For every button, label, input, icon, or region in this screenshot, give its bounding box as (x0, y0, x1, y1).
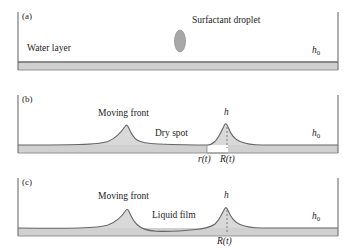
h0-label-a: h0 (312, 46, 320, 56)
h0-subscript-b: 0 (317, 132, 320, 139)
panel-a-graphic (0, 0, 356, 83)
water-layer-band (18, 62, 338, 70)
h0-label-b: h0 (312, 129, 320, 139)
panel-b-graphic (0, 83, 356, 166)
surfactant-droplet-shape (175, 30, 186, 52)
liquid-film-label: Liquid film (152, 211, 196, 221)
panel-c-graphic (0, 166, 356, 249)
panel-b: (b) Moving front Dry spot h h0 r(t) R(t) (0, 83, 356, 166)
moving-front-label-b: Moving front (98, 109, 149, 119)
dry-spot-label: Dry spot (155, 129, 188, 139)
panel-a-label: (a) (22, 12, 32, 21)
water-layer-label: Water layer (27, 44, 71, 54)
panel-a: (a) Water layer Surfactant droplet h0 (0, 0, 356, 83)
R-of-t-label-b: R(t) (220, 155, 235, 165)
h0-subscript-a: 0 (317, 49, 320, 56)
R-of-t-label-c: R(t) (217, 237, 232, 247)
panel-c-label: (c) (22, 178, 32, 187)
surfactant-droplet-label: Surfactant droplet (192, 16, 260, 26)
h-label-c: h (224, 191, 229, 201)
r-of-t-label: r(t) (198, 155, 211, 165)
dry-spot-gap (207, 145, 228, 153)
water-layer-band-b (18, 145, 338, 153)
h-label-b: h (224, 108, 229, 118)
moving-front-label-c: Moving front (98, 192, 149, 202)
panel-c: (c) Moving front Liquid film h h0 R(t) (0, 166, 356, 249)
h0-subscript-c: 0 (317, 215, 320, 222)
figure-container: (a) Water layer Surfactant droplet h0 (0, 0, 356, 249)
h0-label-c: h0 (312, 212, 320, 222)
water-layer-band-c (18, 228, 338, 236)
panel-b-label: (b) (22, 95, 33, 104)
